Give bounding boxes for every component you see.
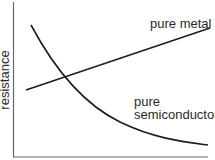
metal-label: pure metal bbox=[150, 16, 212, 31]
semiconductor-series-curve bbox=[31, 25, 208, 145]
metal-series-line bbox=[26, 28, 210, 90]
resistance-chart: resistance pure metal pure semiconductor bbox=[0, 0, 215, 160]
y-axis-label: resistance bbox=[0, 50, 12, 109]
semiconductor-label-line2: semiconductor bbox=[134, 107, 215, 122]
